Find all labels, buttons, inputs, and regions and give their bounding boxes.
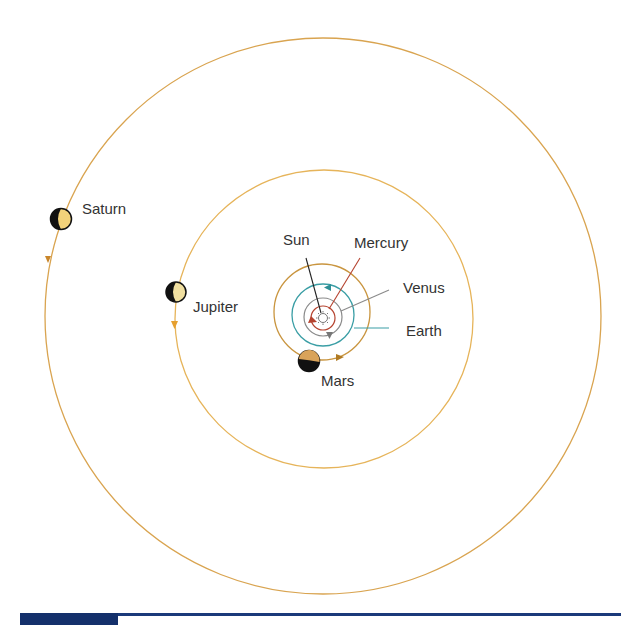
venus-label: Venus — [403, 279, 445, 296]
sun-label: Sun — [283, 231, 310, 248]
mars-label: Mars — [321, 372, 354, 389]
earth-direction-arrow — [324, 284, 331, 291]
saturn-planet-icon — [51, 209, 72, 230]
sun-icon — [316, 311, 330, 325]
jupiter-label: Jupiter — [193, 298, 238, 315]
mars-planet-icon — [299, 350, 320, 372]
venus-leader-line — [341, 290, 389, 311]
saturn-label: Saturn — [82, 200, 126, 217]
mercury-label: Mercury — [354, 234, 409, 251]
footer-tab-block — [20, 613, 118, 625]
mercury-direction-arrow — [308, 316, 317, 323]
jupiter-direction-arrow — [171, 321, 178, 329]
jupiter-planet-icon — [166, 282, 186, 302]
earth-label: Earth — [406, 322, 442, 339]
solar-system-diagram: Saturn Jupiter Sun Mercury Venus Earth M… — [0, 0, 641, 625]
